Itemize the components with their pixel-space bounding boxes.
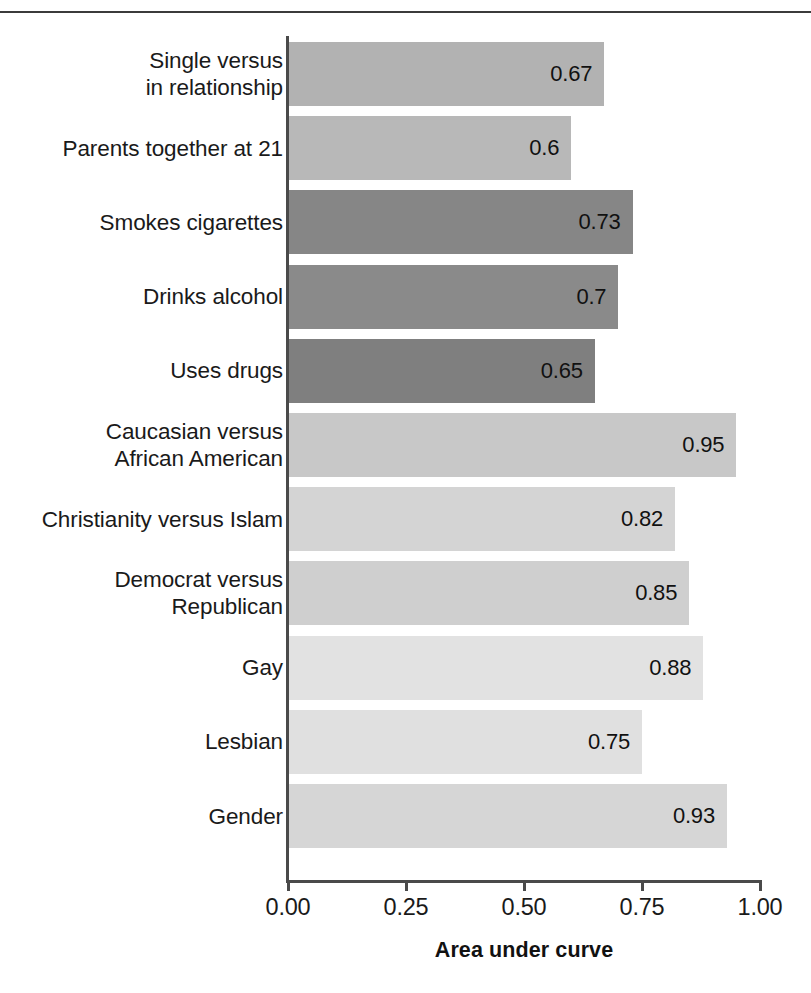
bar-value-label: 0.7 bbox=[550, 265, 606, 329]
bar-row: Drinks alcohol0.7 bbox=[0, 260, 811, 334]
bar-row: Lesbian0.75 bbox=[0, 705, 811, 779]
bar-value-label: 0.73 bbox=[565, 190, 621, 254]
x-tick-mark bbox=[523, 880, 526, 891]
x-tick-label: 1.00 bbox=[700, 894, 811, 921]
x-tick-label: 0.25 bbox=[346, 894, 466, 921]
bar-category-label-line1: Parents together at 21 bbox=[63, 135, 283, 162]
bar-category-label-line1: Gay bbox=[242, 654, 283, 681]
bar-value-label: 0.82 bbox=[607, 487, 663, 551]
x-tick-label: 0.75 bbox=[582, 894, 702, 921]
bar-value-label: 0.67 bbox=[536, 42, 592, 106]
plot-area: Single versusin relationship0.67Parents … bbox=[0, 0, 811, 993]
bar-track: 0.93 bbox=[288, 784, 760, 848]
bar-track: 0.7 bbox=[288, 265, 760, 329]
bar-category-label-line2: in relationship bbox=[146, 74, 283, 101]
bar-category-label-line1: Smokes cigarettes bbox=[100, 209, 283, 236]
x-tick-mark bbox=[641, 880, 644, 891]
bar-category-label-line1: Christianity versus Islam bbox=[42, 506, 283, 533]
bar-value-label: 0.93 bbox=[659, 784, 715, 848]
bar-row: Democrat versusRepublican0.85 bbox=[0, 556, 811, 630]
x-tick-label: 0.50 bbox=[464, 894, 584, 921]
bar-row: Uses drugs0.65 bbox=[0, 334, 811, 408]
bar-row: Caucasian versusAfrican American0.95 bbox=[0, 408, 811, 482]
bar-value-label: 0.85 bbox=[621, 561, 677, 625]
bar-category-label-line2: Republican bbox=[171, 593, 283, 620]
bar-row: Smokes cigarettes0.73 bbox=[0, 185, 811, 259]
bar-track: 0.85 bbox=[288, 561, 760, 625]
bar-track: 0.88 bbox=[288, 636, 760, 700]
bar-category-label: Gender bbox=[33, 779, 283, 853]
bar-row: Parents together at 210.6 bbox=[0, 111, 811, 185]
bar-category-label: Lesbian bbox=[33, 705, 283, 779]
bar-track: 0.67 bbox=[288, 42, 760, 106]
bar-category-label: Christianity versus Islam bbox=[33, 482, 283, 556]
bar-category-label-line1: Democrat versus bbox=[114, 566, 283, 593]
bar-track: 0.75 bbox=[288, 710, 760, 774]
bar-value-label: 0.95 bbox=[668, 413, 724, 477]
bar-category-label-line1: Single versus bbox=[149, 47, 283, 74]
bar-category-label-line1: Lesbian bbox=[205, 728, 283, 755]
bar-row: Single versusin relationship0.67 bbox=[0, 37, 811, 111]
bar-row: Gender0.93 bbox=[0, 779, 811, 853]
bar-category-label-line1: Caucasian versus bbox=[106, 418, 283, 445]
x-tick-label: 0.00 bbox=[228, 894, 348, 921]
bar-category-label-line2: African American bbox=[115, 445, 283, 472]
bar-category-label: Gay bbox=[33, 631, 283, 705]
bar-value-label: 0.65 bbox=[527, 339, 583, 403]
x-tick-mark bbox=[287, 880, 290, 891]
bar-category-label: Single versusin relationship bbox=[33, 37, 283, 111]
x-tick-mark bbox=[759, 880, 762, 891]
bar-category-label: Democrat versusRepublican bbox=[33, 556, 283, 630]
bar-value-label: 0.6 bbox=[503, 116, 559, 180]
bar-row: Gay0.88 bbox=[0, 631, 811, 705]
bar-value-label: 0.88 bbox=[635, 636, 691, 700]
bar-track: 0.82 bbox=[288, 487, 760, 551]
bar-category-label: Parents together at 21 bbox=[33, 111, 283, 185]
bar-track: 0.65 bbox=[288, 339, 760, 403]
bar-track: 0.73 bbox=[288, 190, 760, 254]
y-axis-spine bbox=[286, 36, 289, 881]
bar-track: 0.95 bbox=[288, 413, 760, 477]
bar-category-label: Smokes cigarettes bbox=[33, 185, 283, 259]
bar-category-label: Drinks alcohol bbox=[33, 260, 283, 334]
bar-category-label: Caucasian versusAfrican American bbox=[33, 408, 283, 482]
x-axis-title: Area under curve bbox=[288, 938, 760, 963]
bar-category-label-line1: Uses drugs bbox=[170, 357, 283, 384]
bar-track: 0.6 bbox=[288, 116, 760, 180]
bar-value-label: 0.75 bbox=[574, 710, 630, 774]
bar-row: Christianity versus Islam0.82 bbox=[0, 482, 811, 556]
bar-category-label-line1: Drinks alcohol bbox=[143, 283, 283, 310]
bar-category-label: Uses drugs bbox=[33, 334, 283, 408]
bar-category-label-line1: Gender bbox=[209, 803, 283, 830]
bar-chart-figure: Single versusin relationship0.67Parents … bbox=[0, 0, 811, 993]
x-tick-mark bbox=[405, 880, 408, 891]
